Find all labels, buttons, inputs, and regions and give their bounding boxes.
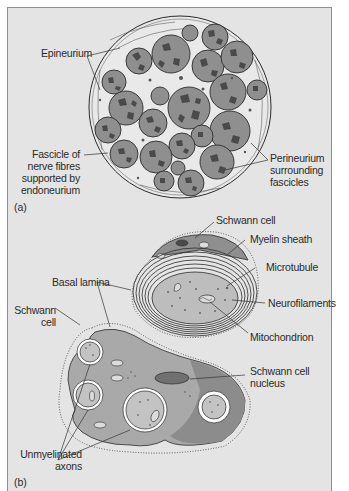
label-fascicle: Fascicle of nerve fibres supported by en… [20, 148, 80, 196]
label-epineurium: Epineurium [41, 47, 92, 59]
myelinated-axon [132, 232, 258, 338]
label-perineurium: Perineurium surrounding fascicles [270, 152, 324, 188]
mitochondrion-shape [199, 295, 215, 303]
label-neurofilaments: Neurofilaments [268, 297, 336, 309]
label-schwann-cell-top: Schwann cell [216, 214, 275, 226]
schwann-cell-nucleus [155, 372, 189, 384]
panel-a-letter: (a) [14, 201, 27, 213]
label-microtubule: Microtubule [266, 261, 318, 273]
schwann-nucleus-small [176, 240, 188, 246]
label-basal-lamina: Basal lamina [52, 276, 110, 288]
nerve-cross-section [89, 16, 271, 198]
label-schwann-nucleus: Schwann cell nucleus [250, 365, 309, 389]
label-mitochondrion: Mitochondrion [250, 331, 313, 343]
label-schwann-cell-left: Schwann cell [14, 304, 56, 328]
panel-b-letter: (b) [14, 476, 27, 488]
label-unmyelinated-axons: Unmyelinated axons [20, 448, 82, 472]
label-myelin-sheath: Myelin sheath [250, 233, 312, 245]
unmyelinated-schwann-cell [59, 323, 250, 453]
axoplasm [152, 272, 238, 324]
figure-illustration [0, 0, 349, 491]
